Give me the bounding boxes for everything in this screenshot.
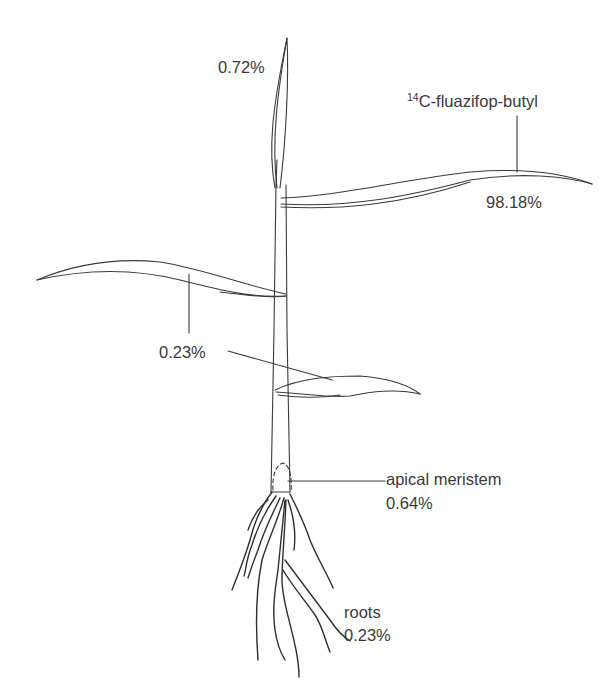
stem: [271, 160, 290, 492]
top-leaf-percentage: 0.72%: [218, 58, 265, 77]
treated-leaf: [281, 171, 592, 208]
treated-leaf-percentage: 98.18%: [486, 193, 542, 212]
roots-label: roots: [344, 603, 381, 622]
lower-leaf-leader-line: [228, 351, 332, 380]
left-leaf: [37, 261, 286, 297]
top-leaf: [272, 38, 288, 188]
treated-leaf-label: 14C-fluazifop-butyl: [407, 92, 538, 111]
lower-leaves-percentage: 0.23%: [159, 343, 206, 362]
plant-diagram: 0.72% 14C-fluazifop-butyl 98.18% 0.23% a…: [0, 0, 615, 693]
apical-meristem-outline: [273, 463, 291, 492]
apical-meristem-percentage: 0.64%: [386, 494, 433, 513]
apical-meristem-label: apical meristem: [386, 470, 502, 489]
roots-percentage: 0.23%: [344, 626, 391, 645]
roots: [232, 492, 350, 677]
herbicide-name: C-fluazifop-butyl: [419, 92, 538, 110]
isotope-superscript: 14: [407, 91, 419, 103]
lower-right-leaf: [275, 376, 420, 397]
